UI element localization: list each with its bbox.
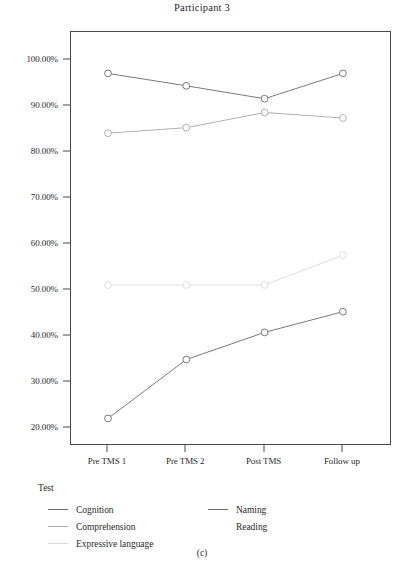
data-point-marker: [183, 124, 190, 131]
data-point-marker: [261, 282, 268, 289]
series-line: [108, 312, 343, 419]
y-axis-tick-mark: [63, 196, 70, 197]
y-axis-tick-label: 40.00%: [31, 330, 58, 340]
data-point-marker: [340, 70, 347, 77]
y-axis-tick-label: 30.00%: [31, 376, 58, 386]
legend-line-swatch: [48, 526, 68, 527]
series-comprehension: [105, 109, 347, 137]
legend-item[interactable]: Naming: [208, 501, 267, 518]
series-line: [108, 73, 343, 98]
figure-caption: (c): [0, 548, 404, 558]
y-axis-tick-mark: [63, 380, 70, 381]
legend-item-label: Reading: [236, 522, 267, 532]
series-line: [108, 113, 343, 134]
y-axis-tick-label: 20.00%: [31, 422, 58, 432]
legend-item-label: Naming: [236, 505, 266, 515]
series-naming: [105, 308, 347, 422]
y-axis: 20.00%30.00%40.00%50.00%60.00%70.00%80.0…: [0, 31, 70, 445]
legend-column-right: NamingReading: [208, 501, 267, 535]
legend-item-label: Comprehension: [76, 522, 136, 532]
legend-line-swatch: [208, 526, 228, 527]
y-axis-tick-mark: [63, 242, 70, 243]
data-point-marker: [261, 95, 268, 102]
y-axis-tick-mark: [63, 334, 70, 335]
chart-title: Participant 3: [0, 2, 404, 13]
legend-item[interactable]: Cognition: [48, 501, 153, 518]
x-axis-tick-mark: [185, 445, 186, 452]
y-axis-tick-mark: [63, 104, 70, 105]
y-axis-tick-mark: [63, 150, 70, 151]
plot-area: [70, 31, 391, 445]
y-axis-tick-label: 100.00%: [26, 54, 58, 64]
x-axis-tick-label: Pre TMS 1: [88, 456, 126, 466]
y-axis-tick-label: 60.00%: [31, 238, 58, 248]
data-point-marker: [340, 252, 347, 259]
y-axis-tick-mark: [63, 58, 70, 59]
x-axis-tick-label: Post TMS: [246, 456, 281, 466]
data-point-marker: [183, 82, 190, 89]
data-point-marker: [105, 70, 112, 77]
data-point-marker: [340, 308, 347, 315]
data-point-marker: [340, 115, 347, 122]
data-point-marker: [261, 109, 268, 116]
legend-item[interactable]: Comprehension: [48, 518, 153, 535]
data-point-marker: [105, 415, 112, 422]
y-axis-tick-mark: [63, 426, 70, 427]
y-axis-tick-label: 80.00%: [31, 146, 58, 156]
series-cognition: [105, 70, 347, 102]
legend-line-swatch: [208, 509, 228, 510]
y-axis-tick-label: 50.00%: [31, 284, 58, 294]
plot-svg: [71, 32, 392, 446]
data-point-marker: [105, 282, 112, 289]
legend-title: Test: [38, 483, 378, 493]
x-axis-tick-label: Follow up: [324, 456, 360, 466]
legend: Test CognitionComprehensionExpressive la…: [38, 483, 378, 553]
data-point-marker: [261, 329, 268, 336]
series-line: [108, 255, 343, 285]
legend-line-swatch: [48, 509, 68, 510]
legend-item-label: Cognition: [76, 505, 114, 515]
y-axis-tick-mark: [63, 288, 70, 289]
x-axis: Pre TMS 1Pre TMS 2Post TMSFollow up: [70, 445, 391, 475]
y-axis-tick-label: 70.00%: [31, 192, 58, 202]
legend-item-label: Expressive language: [76, 539, 153, 549]
data-point-marker: [183, 356, 190, 363]
legend-column-left: CognitionComprehensionExpressive languag…: [48, 501, 153, 552]
x-axis-tick-label: Pre TMS 2: [166, 456, 204, 466]
x-axis-tick-mark: [107, 445, 108, 452]
data-point-marker: [183, 282, 190, 289]
y-axis-tick-label: 90.00%: [31, 100, 58, 110]
x-axis-tick-mark: [263, 445, 264, 452]
data-point-marker: [105, 130, 112, 137]
legend-item[interactable]: Reading: [208, 518, 267, 535]
legend-entries: CognitionComprehensionExpressive languag…: [38, 501, 378, 553]
x-axis-tick-mark: [341, 445, 342, 452]
series-expressive-language: [105, 252, 347, 289]
legend-line-swatch: [48, 543, 68, 544]
